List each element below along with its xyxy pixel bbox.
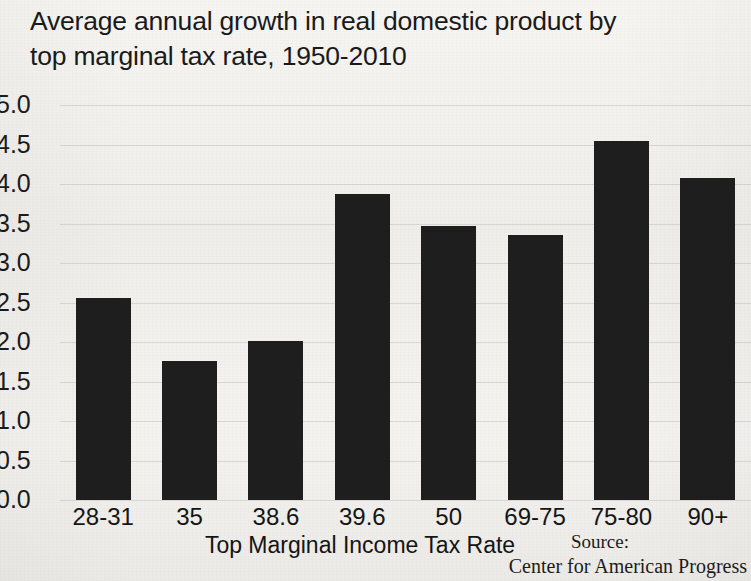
source-organization: Center for American Progress (307, 554, 747, 579)
bar[interactable] (594, 141, 649, 500)
bar[interactable] (680, 178, 735, 500)
y-axis-tick-label: 5.0 (0, 92, 56, 117)
y-axis-tick-label: 4.0 (0, 171, 56, 196)
bar-slot (319, 105, 405, 500)
x-axis-tick-label: 75-80 (578, 503, 664, 533)
y-axis-tick-label: 1.5 (0, 369, 56, 394)
chart-figure: Average annual growth in real domestic p… (0, 0, 751, 581)
x-axis-tick-label: 38.6 (233, 503, 319, 533)
plot-area: 5.04.54.03.53.02.52.01.51.00.50.0 (60, 105, 751, 500)
y-axis-tick-label: 2.5 (0, 290, 56, 315)
source-credit: Source: Center for American Progress (307, 530, 747, 579)
bar-slot (665, 105, 751, 500)
y-axis-tick-label: 4.5 (0, 132, 56, 157)
y-axis-tick-label: 3.0 (0, 250, 56, 275)
bar-slot (146, 105, 232, 500)
bar-slot (492, 105, 578, 500)
bar-slot (60, 105, 146, 500)
chart-title-line-1: Average annual growth in real domestic p… (30, 4, 730, 39)
chart-title-line-2: top marginal tax rate, 1950-2010 (30, 39, 730, 74)
bar-slot (578, 105, 664, 500)
x-axis-tick-label: 69-75 (492, 503, 578, 533)
bar[interactable] (335, 194, 390, 500)
source-label: Source: (307, 530, 629, 554)
bar[interactable] (421, 226, 476, 500)
y-axis-tick-label: 0.0 (0, 487, 56, 512)
x-axis-tick-label: 90+ (665, 503, 751, 533)
y-axis-tick-label: 3.5 (0, 211, 56, 236)
y-axis-tick-label: 1.0 (0, 408, 56, 433)
y-axis-tick-label: 2.0 (0, 329, 56, 354)
x-axis-tick-labels: 28-313538.639.65069-7575-8090+ (60, 503, 751, 533)
x-axis-tick-label: 50 (406, 503, 492, 533)
bar-slot (406, 105, 492, 500)
bar-series (60, 105, 751, 500)
y-axis-tick-label: 0.5 (0, 448, 56, 473)
chart-title: Average annual growth in real domestic p… (30, 4, 730, 74)
x-axis-tick-label: 35 (146, 503, 232, 533)
bar-slot (233, 105, 319, 500)
bar[interactable] (248, 341, 303, 500)
gridline (60, 500, 751, 501)
bar[interactable] (508, 235, 563, 500)
bar[interactable] (162, 361, 217, 500)
bar[interactable] (76, 298, 131, 500)
x-axis-tick-label: 39.6 (319, 503, 405, 533)
x-axis-tick-label: 28-31 (60, 503, 146, 533)
